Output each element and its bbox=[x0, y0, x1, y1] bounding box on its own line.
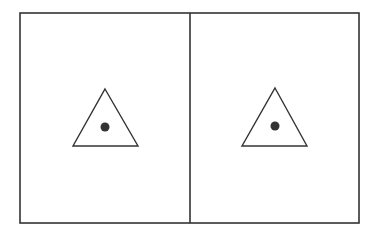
dot-marker bbox=[101, 123, 110, 132]
diagram-canvas bbox=[0, 0, 377, 237]
dot-marker bbox=[271, 122, 280, 131]
